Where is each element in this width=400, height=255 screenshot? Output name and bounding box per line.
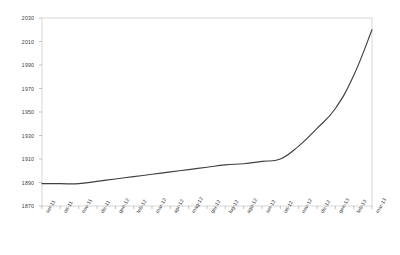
y-tick-label: 1910 [8,156,34,162]
y-tick-label: 2030 [8,15,34,21]
line-chart-figure: 187018901910193019501970199020102030 set… [0,0,400,255]
plot-area-border [42,18,372,206]
y-tick-label: 1950 [8,109,34,115]
chart-canvas [0,0,400,255]
y-tick-label: 1970 [8,86,34,92]
y-tick-label: 1890 [8,180,34,186]
y-tick-label: 1990 [8,62,34,68]
y-tick-label: 2010 [8,39,34,45]
y-tick-label: 1870 [8,203,34,209]
y-tick-label: 1930 [8,133,34,139]
